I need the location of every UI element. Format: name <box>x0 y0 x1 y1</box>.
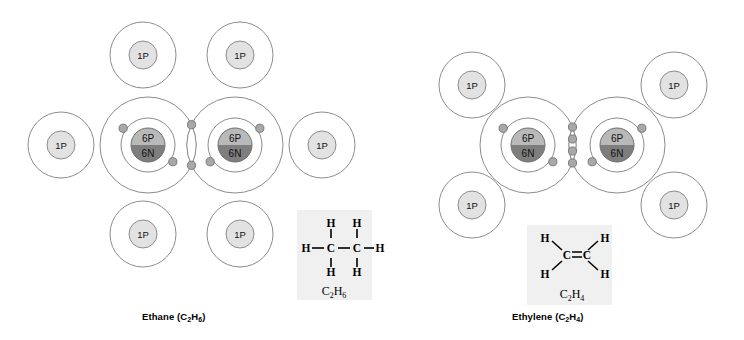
shared-electron <box>568 135 576 143</box>
hydrogen-proton-label: 1P <box>234 50 246 61</box>
inner-shell-electron <box>638 124 646 132</box>
shared-electron <box>568 159 576 167</box>
caption-ethylene-text: Ethylene (C <box>512 311 565 322</box>
carbon-nucleus: 6P6N <box>600 128 634 162</box>
caption-ethylene-end: ) <box>580 311 583 322</box>
hydrogen-proton-label: 1P <box>55 140 67 151</box>
inner-shell-electron <box>499 124 507 132</box>
carbon-neutron-label: 6N <box>142 148 155 159</box>
hydrogen-proton-label: 1P <box>137 50 149 61</box>
inner-shell-electron <box>256 124 264 132</box>
carbon-proton-label: 6P <box>142 133 155 144</box>
caption-ethane: Ethane (C2H6) <box>142 311 205 323</box>
inner-shell-electron <box>588 158 596 166</box>
formula-atom-h: H <box>302 242 311 254</box>
cc-bond-lens <box>187 125 196 166</box>
carbon-proton-label: 6P <box>611 133 624 144</box>
ethane-skeletal-formula: H H H C C H H H C2H6 <box>297 210 385 300</box>
formula-atom-h: H <box>327 266 336 278</box>
hydrogen-proton-label: 1P <box>466 200 478 211</box>
hydrogen-proton-label: 1P <box>234 229 246 240</box>
carbon-proton-label: 6P <box>522 133 535 144</box>
shared-electron <box>568 147 576 155</box>
formula-atom-h: H <box>353 266 362 278</box>
molecule-diagram-svg: 6P6N6P6N1P1P1P1P1P1P6P6N6P6N1P1P1P1P H H… <box>0 0 744 340</box>
formula-atom-h: H <box>376 242 385 254</box>
formula-atom-h: H <box>541 232 550 244</box>
shared-electron <box>187 161 195 169</box>
shared-electron <box>568 123 576 131</box>
shared-electron <box>187 121 195 129</box>
formula-atom-c: C <box>583 249 591 261</box>
hydrogen-proton-label: 1P <box>668 200 680 211</box>
figure-canvas: 6P6N6P6N1P1P1P1P1P1P6P6N6P6N1P1P1P1P H H… <box>0 0 744 340</box>
carbon-neutron-label: 6N <box>229 148 242 159</box>
caption-ethane-end: ) <box>202 311 205 322</box>
formula-atom-h: H <box>327 217 336 229</box>
caption-ethane-text: Ethane (C <box>142 311 187 322</box>
inner-shell-electron <box>119 124 127 132</box>
carbon-nucleus: 6P6N <box>131 128 165 162</box>
hydrogen-proton-label: 1P <box>668 80 680 91</box>
formula-atom-h: H <box>541 268 550 280</box>
cc-bond-lens <box>569 127 576 163</box>
caption-ethylene: Ethylene (C2H4) <box>512 311 584 323</box>
carbon-neutron-label: 6N <box>611 148 624 159</box>
hydrogen-proton-label: 1P <box>466 80 478 91</box>
ethylene-skeletal-formula: H H C C H H C2H4 <box>527 225 612 305</box>
carbon-neutron-label: 6N <box>522 148 535 159</box>
inner-shell-electron <box>206 158 214 166</box>
carbon-nucleus: 6P6N <box>511 128 545 162</box>
hydrogen-proton-label: 1P <box>316 140 328 151</box>
inner-shell-electron <box>549 158 557 166</box>
carbon-nucleus: 6P6N <box>218 128 252 162</box>
hydrogen-proton-label: 1P <box>137 229 149 240</box>
formula-atom-h: H <box>353 217 362 229</box>
formula-atom-c: C <box>353 242 361 254</box>
carbon-proton-label: 6P <box>229 133 242 144</box>
formula-atom-h: H <box>601 268 610 280</box>
formula-atom-c: C <box>327 242 335 254</box>
inner-shell-electron <box>169 158 177 166</box>
formula-atom-h: H <box>601 232 610 244</box>
formula-atom-c: C <box>563 249 571 261</box>
